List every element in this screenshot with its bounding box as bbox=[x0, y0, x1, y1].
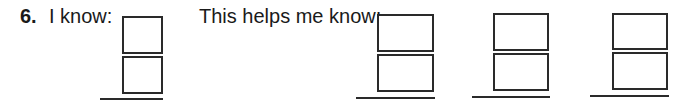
answer-line[interactable] bbox=[590, 95, 669, 97]
denominator-box[interactable] bbox=[377, 54, 434, 92]
numerator-box[interactable] bbox=[493, 13, 549, 51]
denominator-box[interactable] bbox=[122, 56, 163, 94]
helps-label: This helps me know: bbox=[199, 5, 381, 27]
answer-line[interactable] bbox=[472, 96, 550, 98]
numerator-box[interactable] bbox=[377, 14, 434, 52]
answer-line[interactable] bbox=[100, 98, 163, 100]
denominator-box[interactable] bbox=[612, 52, 668, 90]
denominator-box[interactable] bbox=[493, 53, 549, 91]
answer-line[interactable] bbox=[356, 97, 435, 99]
problem-number: 6. bbox=[20, 5, 37, 27]
numerator-box[interactable] bbox=[612, 13, 668, 50]
numerator-box[interactable] bbox=[122, 16, 163, 54]
known-label: I know: bbox=[49, 5, 112, 27]
